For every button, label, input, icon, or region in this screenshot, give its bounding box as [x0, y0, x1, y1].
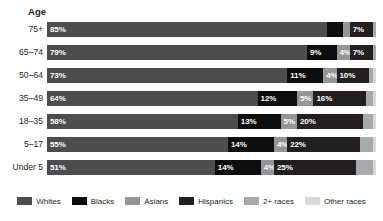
legend-item-asians[interactable]: Asians — [125, 197, 168, 206]
bar-segment-other-races — [373, 91, 376, 106]
bar-segment-asians: 5% — [281, 114, 297, 129]
bar-row: Under 551%14%4%25% — [0, 160, 383, 175]
segment-value-label: 5% — [284, 114, 295, 129]
bar-segment-hispanics: 20% — [297, 114, 363, 129]
segment-value-label: 16% — [316, 91, 332, 106]
bar-segment-asians: 5% — [297, 91, 313, 106]
chart-legend: WhitesBlacksAsiansHispanics2+ racesOther… — [0, 193, 383, 209]
legend-item-2-races[interactable]: 2+ races — [244, 197, 294, 206]
segment-value-label: 7% — [353, 45, 364, 60]
bar-segment-other-races — [373, 137, 376, 152]
legend-label: 2+ races — [263, 197, 294, 206]
legend-label: Asians — [144, 197, 168, 206]
segment-value-label: 85% — [50, 22, 66, 37]
category-label-2: 65–74 — [0, 45, 43, 60]
legend-item-hispanics[interactable]: Hispanics — [179, 197, 233, 206]
bar-segment-hispanics: 22% — [287, 137, 359, 152]
segment-value-label: 10% — [340, 68, 356, 83]
bar-segment-whites: 85% — [47, 22, 327, 37]
segment-value-label: 11% — [290, 68, 305, 83]
segment-value-label: 25% — [277, 160, 293, 175]
stacked-bar: 73%11%4%10% — [47, 68, 376, 83]
bar-segment-asians: 4% — [274, 137, 287, 152]
bar-row: 65–7479%9%4%7% — [0, 45, 383, 60]
legend-item-blacks[interactable]: Blacks — [72, 197, 115, 206]
stacked-bar: 58%13%5%20% — [47, 114, 376, 129]
bar-segment-blacks: 14% — [228, 137, 274, 152]
bar-segment-whites: 73% — [47, 68, 287, 83]
bar-segment-hispanics: 16% — [313, 91, 366, 106]
category-label-4: 35–49 — [0, 91, 43, 106]
segment-value-label: 55% — [50, 137, 66, 152]
legend-swatch-icon — [17, 197, 32, 205]
bar-segment-whites: 55% — [47, 137, 228, 152]
bar-row: 50–6473%11%4%10% — [0, 68, 383, 83]
bar-segment-blacks: 11% — [287, 68, 323, 83]
bar-segment-2-races — [360, 137, 373, 152]
bar-segment-blacks — [327, 22, 343, 37]
bar-segment-hispanics: 10% — [337, 68, 370, 83]
category-label-7: Under 5 — [0, 160, 43, 175]
category-label-1: 75+ — [0, 22, 43, 37]
legend-swatch-icon — [179, 197, 194, 205]
segment-value-label: 22% — [290, 137, 306, 152]
category-label-5: 18–35 — [0, 114, 43, 129]
bar-segment-asians: 4% — [261, 160, 274, 175]
bar-segment-asians — [343, 22, 350, 37]
segment-value-label: 20% — [300, 114, 316, 129]
stacked-bar: 85%7%5% — [47, 22, 376, 37]
legend-item-whites[interactable]: Whites — [17, 197, 60, 206]
segment-value-label: 73% — [50, 68, 66, 83]
category-label-6: 5–17 — [0, 137, 43, 152]
segment-value-label: 51% — [50, 160, 66, 175]
segment-value-label: 14% — [218, 160, 234, 175]
bar-segment-whites: 58% — [47, 114, 238, 129]
stacked-bar: 79%9%4%7% — [47, 45, 376, 60]
bar-segment-blacks: 9% — [307, 45, 337, 60]
bar-segment-2-races — [356, 160, 372, 175]
bar-segment-other-races — [373, 160, 376, 175]
legend-label: Blacks — [91, 197, 115, 206]
plot-area: 75+85%7%5%65–7479%9%4%7%50–6473%11%4%10%… — [0, 22, 383, 188]
bar-segment-blacks: 13% — [238, 114, 281, 129]
bar-segment-hispanics: 7% — [350, 45, 373, 60]
stacked-bar: 55%14%4%22% — [47, 137, 376, 152]
legend-label: Other races — [324, 197, 366, 206]
segment-value-label: 79% — [50, 45, 66, 60]
legend-swatch-icon — [244, 197, 259, 205]
legend-item-other-races[interactable]: Other races — [305, 197, 366, 206]
segment-value-label: 14% — [231, 137, 247, 152]
y-axis-title: Age — [28, 6, 46, 17]
bar-row: 18–3558%13%5%20% — [0, 114, 383, 129]
legend-swatch-icon — [72, 197, 87, 205]
bar-segment-asians: 4% — [337, 45, 350, 60]
bar-segment-whites: 64% — [47, 91, 258, 106]
stacked-bar: 64%12%5%16% — [47, 91, 376, 106]
segment-value-label: 9% — [310, 45, 321, 60]
segment-value-label: 13% — [241, 114, 257, 129]
segment-value-label: 58% — [50, 114, 66, 129]
legend-swatch-icon — [305, 197, 320, 205]
legend-label: Hispanics — [198, 197, 233, 206]
bar-segment-2-races — [363, 114, 373, 129]
stacked-bar: 51%14%4%25% — [47, 160, 376, 175]
legend-swatch-icon — [125, 197, 140, 205]
bar-segment-blacks: 12% — [258, 91, 297, 106]
segment-value-label: 5% — [300, 91, 311, 106]
bar-segment-whites: 51% — [47, 160, 215, 175]
bar-row: 35–4964%12%5%16% — [0, 91, 383, 106]
bar-segment-2-races — [366, 91, 373, 106]
bar-segment-hispanics: 25% — [274, 160, 356, 175]
segment-value-label: 64% — [50, 91, 66, 106]
bar-row: 5–1755%14%4%22% — [0, 137, 383, 152]
category-label-3: 50–64 — [0, 68, 43, 83]
bar-segment-whites: 79% — [47, 45, 307, 60]
bar-segment-other-races — [373, 114, 376, 129]
segment-value-label: 7% — [353, 22, 364, 37]
bar-segment-blacks: 14% — [215, 160, 261, 175]
legend-label: Whites — [36, 197, 60, 206]
bar-segment-asians: 4% — [323, 68, 336, 83]
bar-row: 75+85%7%5% — [0, 22, 383, 37]
stacked-bar-chart: Age 75+85%7%5%65–7479%9%4%7%50–6473%11%4… — [0, 0, 383, 221]
bar-segment-other-races — [373, 68, 376, 83]
